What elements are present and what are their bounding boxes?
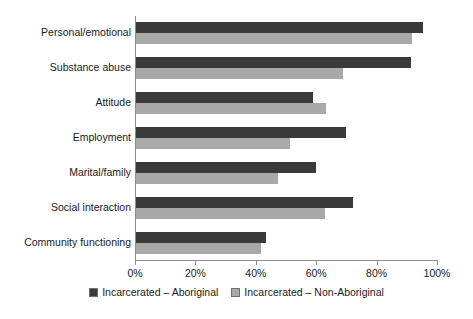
legend-swatch-icon: [89, 288, 98, 297]
category-label: Marital/family: [1, 166, 131, 178]
bar: [136, 197, 353, 208]
bar-group: [136, 197, 438, 219]
category-label: Employment: [1, 131, 131, 143]
bar-group: [136, 57, 438, 79]
x-tick-label: 100%: [424, 267, 451, 279]
chart-legend: Incarcerated – AboriginalIncarcerated – …: [0, 286, 473, 298]
bar-group: [136, 127, 438, 149]
bar: [136, 33, 412, 44]
x-tick-mark: [437, 260, 438, 265]
legend-label: Incarcerated – Non-Aboriginal: [244, 286, 384, 298]
bar: [136, 232, 266, 243]
bar: [136, 208, 325, 219]
category-label: Attitude: [1, 96, 131, 108]
bar: [136, 103, 326, 114]
bar: [136, 57, 411, 68]
bar: [136, 22, 423, 33]
category-label: Social interaction: [1, 201, 131, 213]
category-label: Substance abuse: [1, 61, 131, 73]
x-tick-mark: [195, 260, 196, 265]
x-tick-mark: [377, 260, 378, 265]
x-tick-label: 0%: [127, 267, 142, 279]
bar: [136, 173, 278, 184]
x-axis-line: [135, 260, 437, 261]
bar: [136, 92, 313, 103]
bar: [136, 243, 261, 254]
x-tick-mark: [256, 260, 257, 265]
bar: [136, 162, 316, 173]
bar: [136, 127, 346, 138]
category-label: Community functioning: [1, 236, 131, 248]
x-tick-label: 20%: [185, 267, 206, 279]
legend-item[interactable]: Incarcerated – Aboriginal: [89, 286, 218, 298]
bar: [136, 68, 343, 79]
legend-item[interactable]: Incarcerated – Non-Aboriginal: [231, 286, 384, 298]
plot-area: 0%20%40%60%80%100%: [135, 16, 437, 260]
bar-group: [136, 162, 438, 184]
x-tick-label: 60%: [306, 267, 327, 279]
x-tick-mark: [135, 260, 136, 265]
bar-group: [136, 22, 438, 44]
x-tick-label: 80%: [366, 267, 387, 279]
x-tick-label: 40%: [245, 267, 266, 279]
legend-swatch-icon: [231, 288, 240, 297]
x-tick-mark: [316, 260, 317, 265]
bar-chart: Personal/emotionalSubstance abuseAttitud…: [0, 0, 473, 319]
bar-group: [136, 232, 438, 254]
category-axis-labels: Personal/emotionalSubstance abuseAttitud…: [0, 16, 131, 260]
category-label: Personal/emotional: [1, 26, 131, 38]
legend-label: Incarcerated – Aboriginal: [102, 286, 218, 298]
bar-group: [136, 92, 438, 114]
bar: [136, 138, 290, 149]
